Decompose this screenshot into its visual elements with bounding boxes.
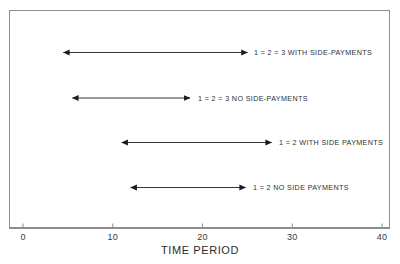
range-arrows bbox=[63, 53, 271, 188]
xtick-label-10: 10 bbox=[108, 232, 118, 242]
x-axis-title: TIME PERIOD bbox=[0, 244, 400, 256]
range-label-3: 1 = 2 WITH SIDE PAYMENTS bbox=[279, 138, 383, 147]
range-label-1: 1 = 2 = 3 WITH SIDE-PAYMENTS bbox=[254, 48, 372, 57]
xtick-label-40: 40 bbox=[377, 232, 387, 242]
axis-ticks bbox=[23, 224, 382, 229]
x-axis bbox=[9, 224, 390, 229]
range-label-4: 1 = 2 NO SIDE PAYMENTS bbox=[253, 183, 349, 192]
chart-canvas bbox=[0, 0, 400, 264]
xtick-label-0: 0 bbox=[20, 232, 25, 242]
chart-page: 1 = 2 = 3 WITH SIDE-PAYMENTS 1 = 2 = 3 N… bbox=[0, 0, 400, 264]
xtick-label-20: 20 bbox=[197, 232, 207, 242]
xtick-label-30: 30 bbox=[287, 232, 297, 242]
range-label-2: 1 = 2 = 3 NO SIDE-PAYMENTS bbox=[198, 94, 308, 103]
